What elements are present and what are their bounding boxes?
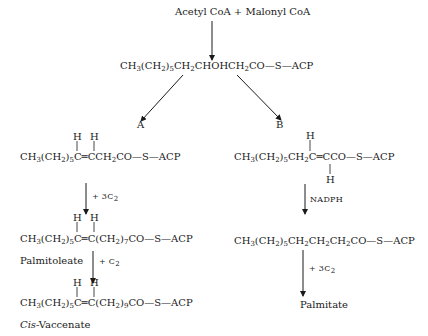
- pathway-b-step2-formula: CH3(CH2)5CH2CH2CH2CO—S—ACP: [234, 235, 415, 247]
- a2-h-left: H: [73, 213, 82, 223]
- a-arrow2-label: + C2: [99, 256, 120, 268]
- a1-h-right: H: [90, 132, 99, 142]
- arrows-layer: [0, 0, 428, 336]
- formula-part: CH: [234, 235, 250, 246]
- formula-part: CH: [309, 235, 325, 246]
- pathway-a-step2-formula: CH3(CH2)5C═C(CH2)7CO—S—ACP: [20, 233, 193, 245]
- label-sub: 2: [114, 195, 119, 203]
- b1-h-bottom: H: [326, 175, 335, 185]
- formula-part: C═CCH: [74, 151, 112, 162]
- pathway-b-step1-formula: CH3(CH2)5CH2C═CCO—S—ACP: [234, 151, 394, 163]
- formula-part: CO—S—ACP: [116, 151, 180, 162]
- start-substrates: Acetyl CoA + Malonyl CoA: [175, 6, 310, 18]
- formula-part: CH: [174, 60, 190, 71]
- branch-label-b: B: [276, 119, 283, 131]
- pathway-a-step3-formula: CH3(CH2)5C═C(CH2)9CO—S—ACP: [20, 297, 193, 309]
- label-text: + 3C: [309, 264, 331, 273]
- arrow-branch-a: [141, 75, 183, 121]
- label-sub: 2: [331, 267, 336, 275]
- cis-vaccenate-label: Cis-Vaccenate: [20, 319, 90, 331]
- formula-part: CO—S—ACP: [128, 233, 192, 244]
- a2-h-right: H: [90, 213, 99, 223]
- formula-part: (CH: [255, 235, 275, 246]
- formula-part: CO—S—ACP: [128, 297, 192, 308]
- arrow-branch-b: [237, 75, 281, 120]
- formula-part: (CH: [141, 60, 161, 71]
- palmitoleate-label: Palmitoleate: [20, 255, 83, 267]
- formula-part: CH: [288, 235, 304, 246]
- branch-label-a: A: [137, 119, 144, 131]
- label-italic: Cis: [20, 319, 36, 330]
- label-text: + C: [99, 257, 115, 266]
- formula-part: CO—S—ACP: [351, 235, 415, 246]
- formula-part: CH: [120, 60, 136, 71]
- b1-h-top: H: [306, 131, 315, 141]
- pathway-a-step1-formula: CH3(CH2)5C═CCH2CO—S—ACP: [20, 151, 180, 163]
- a3-h-left: H: [73, 278, 82, 288]
- formula-part: CH: [20, 297, 36, 308]
- formula-part: (CH: [41, 297, 61, 308]
- label-text: + 3C: [92, 192, 114, 201]
- formula-part: CH: [330, 235, 346, 246]
- label-rest: -Vaccenate: [36, 319, 90, 330]
- formula-part: C═CCO—S—ACP: [309, 151, 395, 162]
- a1-h-left: H: [73, 132, 82, 142]
- intermediate-formula: CH3(CH2)5CH2CHOHCH2CO—S—ACP: [120, 60, 313, 72]
- formula-part: CH: [20, 233, 36, 244]
- b-arrow1-label-nadph: NADPH: [310, 194, 343, 206]
- formula-part: CH: [288, 151, 304, 162]
- a3-h-right: H: [90, 278, 99, 288]
- formula-part: CO—S—ACP: [249, 60, 313, 71]
- b-arrow2-label: + 3C2: [309, 263, 335, 275]
- formula-part: CH: [234, 151, 250, 162]
- formula-part: CHOHCH: [195, 60, 245, 71]
- formula-part: C═C(CH: [74, 297, 116, 308]
- formula-part: (CH: [255, 151, 275, 162]
- palmitate-label: Palmitate: [300, 299, 348, 311]
- formula-part: C═C(CH: [74, 233, 116, 244]
- a-arrow1-label: + 3C2: [92, 191, 118, 203]
- formula-part: (CH: [41, 151, 61, 162]
- formula-part: CH: [20, 151, 36, 162]
- formula-part: (CH: [41, 233, 61, 244]
- label-sub: 2: [115, 260, 120, 268]
